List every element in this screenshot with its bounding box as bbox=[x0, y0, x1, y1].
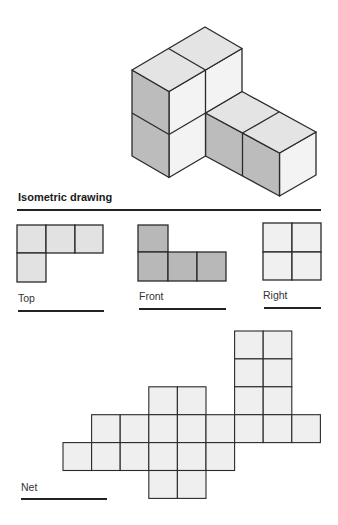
net-cell bbox=[292, 415, 321, 443]
net-cell bbox=[235, 359, 264, 387]
net bbox=[63, 331, 320, 498]
net-cell bbox=[206, 443, 235, 471]
net-cell bbox=[235, 387, 264, 415]
net-cell bbox=[149, 471, 178, 499]
net-cell bbox=[149, 415, 178, 443]
front-view bbox=[138, 225, 226, 281]
net-cell bbox=[92, 443, 121, 471]
net-cell bbox=[120, 443, 149, 471]
section-heading: Isometric drawing bbox=[18, 191, 112, 203]
figure-canvas bbox=[0, 0, 338, 525]
net-cell bbox=[263, 331, 292, 359]
net-cell bbox=[235, 415, 264, 443]
net-cell bbox=[235, 331, 264, 359]
net-cell bbox=[120, 415, 149, 443]
net-cell bbox=[92, 415, 121, 443]
net-cell bbox=[177, 387, 206, 415]
net-cell bbox=[63, 443, 92, 471]
net-label: Net bbox=[21, 481, 37, 493]
net-cell bbox=[177, 471, 206, 499]
top-view-label: Top bbox=[18, 292, 35, 304]
net-cell bbox=[177, 415, 206, 443]
right-view bbox=[263, 223, 321, 280]
net-cell bbox=[149, 443, 178, 471]
right-view-label: Right bbox=[263, 289, 288, 301]
net-underline bbox=[21, 498, 107, 500]
net-cell bbox=[177, 443, 206, 471]
net-cell bbox=[263, 359, 292, 387]
net-cell bbox=[149, 387, 178, 415]
net-cell bbox=[263, 415, 292, 443]
top-view bbox=[17, 225, 103, 282]
right-view-underline bbox=[264, 307, 321, 309]
heading-rule bbox=[17, 209, 321, 211]
front-view-label: Front bbox=[139, 290, 164, 302]
net-cell bbox=[206, 415, 235, 443]
isometric-drawing bbox=[132, 27, 316, 196]
net-cell bbox=[263, 387, 292, 415]
top-view-underline bbox=[18, 310, 104, 312]
front-view-underline bbox=[139, 308, 226, 310]
